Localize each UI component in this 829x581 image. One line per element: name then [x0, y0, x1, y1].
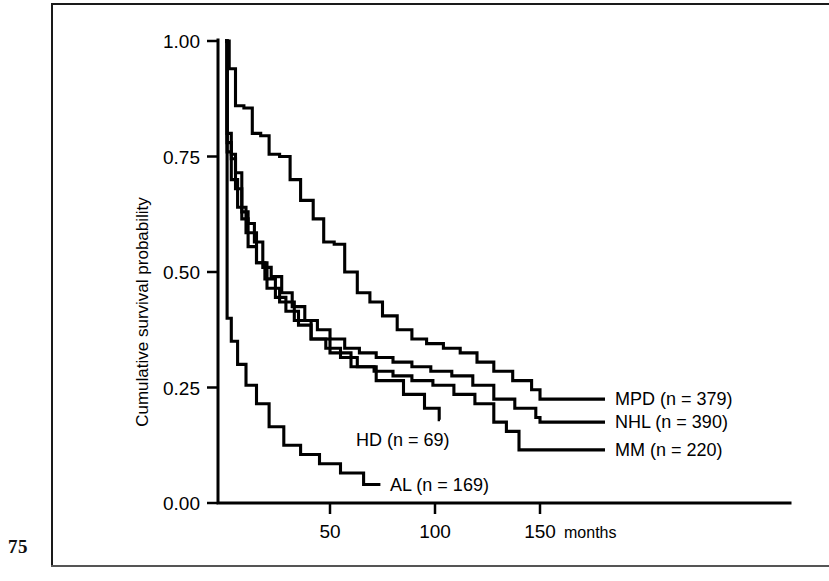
series-label-al: AL (n = 169)	[390, 475, 489, 495]
series-label-hd: HD (n = 69)	[356, 430, 450, 450]
survival-curve-mpd	[225, 41, 605, 399]
x-axis-unit-label: months	[564, 524, 616, 541]
x-axis-tick-label: 150	[524, 521, 556, 542]
series-label-mpd: MPD (n = 379)	[615, 389, 733, 409]
survival-curve-chart: 0.000.250.500.751.0050100150monthsCumula…	[0, 0, 829, 581]
y-axis-tick-label: 1.00	[163, 31, 200, 52]
figure-root: 75 0.000.250.500.751.0050100150monthsCum…	[0, 0, 829, 581]
y-axis-tick-label: 0.00	[163, 493, 200, 514]
y-axis-tick-label: 0.50	[163, 262, 200, 283]
y-axis-tick-label: 0.25	[163, 378, 200, 399]
survival-curve-nhl	[225, 41, 605, 422]
x-axis-tick-label: 100	[419, 521, 451, 542]
series-label-nhl: NHL (n = 390)	[615, 412, 728, 432]
y-axis-tick-label: 0.75	[163, 147, 200, 168]
x-axis-tick-label: 50	[319, 521, 340, 542]
series-label-mm: MM (n = 220)	[615, 440, 723, 460]
chart-axes	[218, 40, 790, 503]
survival-curve-mm	[225, 41, 605, 450]
y-axis-title: Cumulative survival probability	[133, 197, 152, 427]
